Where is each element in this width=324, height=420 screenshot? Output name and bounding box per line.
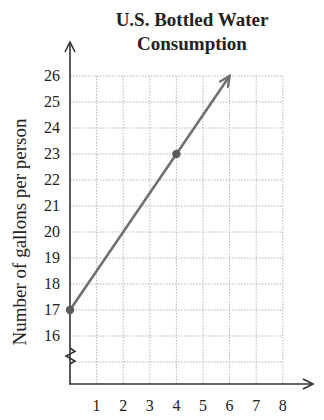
y-tick-label: 22 [44,171,60,188]
x-tick-label: 7 [252,397,260,414]
data-series [66,76,230,314]
axes [65,42,313,389]
y-tick-label: 19 [44,249,60,266]
x-tick-label: 6 [226,397,234,414]
y-tick-label: 24 [44,119,60,136]
gridlines [70,76,283,384]
y-axis-line [66,44,75,384]
x-tick-label: 4 [172,397,180,414]
y-tick-label: 17 [44,301,60,318]
y-tick-label: 20 [44,223,60,240]
x-tick-label: 1 [93,397,101,414]
y-tick-label: 21 [44,197,60,214]
y-tick-label: 18 [44,275,60,292]
x-tick-label: 2 [119,397,127,414]
y-tick-label: 16 [44,327,60,344]
x-tick-label: 3 [146,397,154,414]
x-tick-labels: 12345678 [93,397,287,414]
y-tick-labels: 1617181920212223242526 [44,67,60,344]
data-point [172,150,180,158]
data-point [66,306,74,314]
y-tick-label: 26 [44,67,60,84]
chart-plot: 1617181920212223242526 12345678 [0,0,324,420]
x-tick-label: 8 [279,397,287,414]
y-tick-label: 23 [44,145,60,162]
y-tick-label: 25 [44,93,60,110]
x-tick-label: 5 [199,397,207,414]
